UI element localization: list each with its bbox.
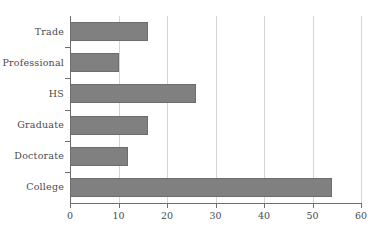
x-axis-tick-60 xyxy=(361,203,362,208)
gridline-60 xyxy=(361,16,362,203)
bar-college[interactable] xyxy=(70,178,332,197)
bar-row xyxy=(70,172,361,203)
x-axis-tick-10 xyxy=(119,203,120,208)
bar-chart: TradeProfessionalHSGraduateDoctorateColl… xyxy=(0,0,385,235)
y-axis-label-graduate: Graduate xyxy=(1,119,64,130)
y-axis-label-college: College xyxy=(1,181,64,192)
y-axis-tick xyxy=(65,47,70,48)
x-axis-label-40: 40 xyxy=(249,210,279,222)
bar-graduate[interactable] xyxy=(70,116,148,135)
x-axis-tick-20 xyxy=(167,203,168,208)
y-axis-spine xyxy=(70,16,71,204)
bar-hs[interactable] xyxy=(70,84,196,103)
x-axis-tick-30 xyxy=(216,203,217,208)
bar-row xyxy=(70,78,361,109)
x-axis-label-30: 30 xyxy=(201,210,231,222)
x-axis-tick-50 xyxy=(313,203,314,208)
x-axis-tick-0 xyxy=(70,203,71,208)
y-axis-label-doctorate: Doctorate xyxy=(1,150,64,161)
bar-row xyxy=(70,110,361,141)
y-axis-tick xyxy=(65,172,70,173)
x-axis-label-20: 20 xyxy=(152,210,182,222)
bar-doctorate[interactable] xyxy=(70,147,128,166)
bar-professional[interactable] xyxy=(70,53,119,72)
bar-row xyxy=(70,47,361,78)
y-axis-tick xyxy=(65,110,70,111)
x-axis-label-10: 10 xyxy=(104,210,134,222)
y-axis-label-hs: HS xyxy=(1,88,64,99)
bar-trade[interactable] xyxy=(70,22,148,41)
y-axis-tick xyxy=(65,141,70,142)
bar-row xyxy=(70,16,361,47)
y-axis-labels: TradeProfessionalHSGraduateDoctorateColl… xyxy=(0,16,64,203)
bar-row xyxy=(70,141,361,172)
y-axis-label-professional: Professional xyxy=(1,57,64,68)
y-axis-tick xyxy=(65,78,70,79)
x-axis-tick-40 xyxy=(264,203,265,208)
x-axis-label-60: 60 xyxy=(346,210,376,222)
x-axis-label-50: 50 xyxy=(298,210,328,222)
x-axis-label-0: 0 xyxy=(55,210,85,222)
plot-area xyxy=(70,16,361,203)
y-axis-label-trade: Trade xyxy=(1,26,64,37)
